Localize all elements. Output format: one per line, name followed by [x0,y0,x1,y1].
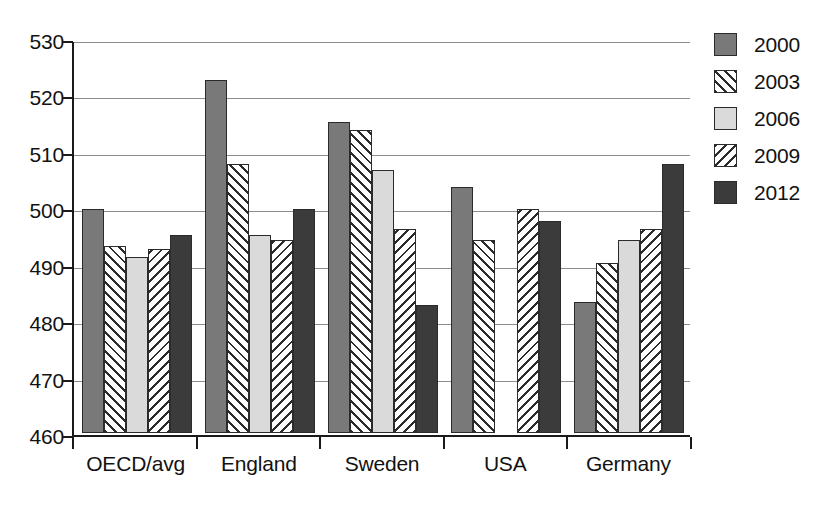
legend-label-2009: 2009 [754,144,800,168]
legend-item-2009[interactable]: 2009 [714,137,834,174]
legend-swatch-2009 [714,144,737,167]
bar-2003-494 [104,246,126,433]
x-axis-label-england: England [197,452,320,476]
bar-2006-507 [372,170,394,433]
bar-2012-500 [293,209,315,433]
plot-area [72,42,690,437]
bar-slot-2009 [394,42,416,433]
x-axis-separator-3 [443,437,445,449]
bar-slot-2003 [596,42,618,433]
bar-group-usa [444,42,567,433]
legend-item-2006[interactable]: 2006 [714,100,834,137]
bar-2012-498 [539,221,561,433]
bar-slot-2006 [495,42,517,433]
bar-chart: 530520510500490480470460 OECD/avgEngland… [0,0,836,509]
bar-group-germany [567,42,690,433]
y-tick-label-490: 490 [2,256,64,280]
bar-2003-514 [350,130,372,433]
y-tick-label-500: 500 [2,199,64,223]
bar-2009-497 [394,229,416,433]
bar-groups [76,42,690,433]
bar-2009-493 [148,249,170,433]
bar-slot-2000 [205,42,227,433]
bar-2006-496 [249,235,271,433]
x-axis-separator-5 [690,437,692,449]
legend-swatch-2000 [714,33,737,56]
bar-slot-2012 [170,42,192,433]
bar-slot-2003 [104,42,126,433]
bar-2000-500 [82,209,104,433]
legend-label-2000: 2000 [754,33,800,57]
bar-group-sweden [322,42,445,433]
bar-2000-484 [574,302,596,433]
bar-slot-2000 [574,42,596,433]
bar-slot-2006 [249,42,271,433]
legend: 20002003200620092012 [714,26,834,211]
bar-2000-516 [328,122,350,433]
y-tick-label-520: 520 [2,86,64,110]
bar-slot-2003 [473,42,495,433]
bar-2003-495 [473,240,495,433]
bar-slot-2003 [227,42,249,433]
bar-slot-2009 [517,42,539,433]
x-axis-separator-0 [72,437,74,449]
bar-2003-491 [596,263,618,433]
legend-item-2003[interactable]: 2003 [714,63,834,100]
bar-slot-2000 [82,42,104,433]
y-tick-label-480: 480 [2,312,64,336]
legend-label-2012: 2012 [754,181,800,205]
bar-slot-2006 [618,42,640,433]
x-axis-label-sweden: Sweden [320,452,443,476]
bar-2000-504 [451,187,473,433]
legend-swatch-2012 [714,181,737,204]
x-axis-separator-4 [566,437,568,449]
bar-slot-2012 [416,42,438,433]
bar-2000-523 [205,80,227,434]
bar-group-oecd-avg [76,42,199,433]
legend-item-2000[interactable]: 2000 [714,26,834,63]
x-axis-label-oecd-avg: OECD/avg [74,452,197,476]
bar-slot-2009 [640,42,662,433]
bar-2009-500 [517,209,539,433]
bar-2006-492 [126,257,148,433]
bar-2012-483 [416,305,438,433]
bar-slot-2009 [271,42,293,433]
y-tick-label-470: 470 [2,369,64,393]
bar-slot-2006 [372,42,394,433]
bar-2009-497 [640,229,662,433]
bar-slot-2012 [539,42,561,433]
bar-slot-2003 [350,42,372,433]
bar-2012-496 [170,235,192,433]
legend-item-2012[interactable]: 2012 [714,174,834,211]
bar-slot-2009 [148,42,170,433]
bar-slot-2006 [126,42,148,433]
legend-label-2006: 2006 [754,107,800,131]
bar-slot-2012 [293,42,315,433]
y-tick-label-460: 460 [2,425,64,449]
legend-swatch-2006 [714,107,737,130]
bar-2009-495 [271,240,293,433]
x-axis-separator-2 [319,437,321,449]
bar-slot-2000 [451,42,473,433]
x-axis-separator-1 [196,437,198,449]
bar-group-england [199,42,322,433]
x-axis-label-germany: Germany [567,452,690,476]
x-axis-labels: OECD/avgEnglandSwedenUSAGermany [74,452,690,476]
y-tick-label-510: 510 [2,143,64,167]
legend-swatch-2003 [714,70,737,93]
legend-label-2003: 2003 [754,70,800,94]
bar-slot-2012 [662,42,684,433]
y-tick-label-530: 530 [2,30,64,54]
bar-slot-2000 [328,42,350,433]
x-axis-label-usa: USA [444,452,567,476]
bar-2006-495 [618,240,640,433]
bar-2003-508 [227,164,249,433]
bar-2012-508 [662,164,684,433]
